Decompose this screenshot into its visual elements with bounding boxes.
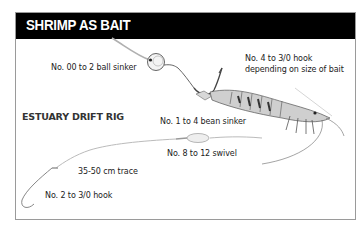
label-hook-bottom: No. 2 to 3/0 hook bbox=[45, 191, 112, 201]
main-line bbox=[112, 38, 150, 60]
bottom-hook-icon bbox=[22, 168, 52, 207]
bean-sinker-icon bbox=[187, 134, 209, 143]
ball-sinker-icon bbox=[148, 54, 165, 71]
estuary-main-line bbox=[210, 137, 262, 138]
label-ball-sinker: No. 00 to 2 ball sinker bbox=[51, 63, 136, 73]
label-trace: 35-50 cm trace bbox=[78, 167, 138, 177]
trace-line bbox=[56, 139, 176, 168]
label-hook-top-line1: No. 4 to 3/0 hook bbox=[245, 54, 312, 64]
label-swivel: No. 8 to 12 swivel bbox=[167, 149, 237, 159]
section-title: ESTUARY DRIFT RIG bbox=[22, 111, 124, 122]
swivel-icon bbox=[176, 138, 187, 139]
label-bean-sinker: No. 1 to 4 bean sinker bbox=[160, 117, 246, 127]
leader-line bbox=[164, 65, 194, 88]
label-hook-top-line2: depending on size of bait bbox=[245, 65, 344, 75]
